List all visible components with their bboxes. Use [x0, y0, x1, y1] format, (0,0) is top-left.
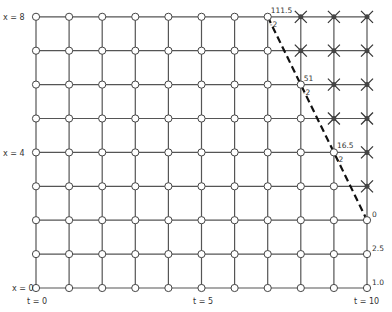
grid-node-circle: [264, 47, 271, 54]
grid-node-circle: [264, 149, 271, 156]
grid-node-circle: [231, 149, 238, 156]
grid-node-circle: [198, 183, 205, 190]
grid-node-circle: [132, 13, 139, 20]
grid-node-circle: [99, 115, 106, 122]
grid-node-circle: [32, 251, 39, 258]
grid-node-circle: [32, 81, 39, 88]
grid-node-circle: [297, 183, 304, 190]
grid-node-circle: [330, 183, 337, 190]
grid-node-circle: [165, 183, 172, 190]
grid-node-circle: [330, 251, 337, 258]
grid-node-circle: [32, 47, 39, 54]
slope-label: -2: [336, 155, 344, 164]
grid-node-circle: [330, 284, 337, 291]
grid-node-circle: [297, 149, 304, 156]
grid-node-circle: [264, 81, 271, 88]
grid-node-circle: [66, 183, 73, 190]
grid-node-circle: [231, 13, 238, 20]
grid-node-circle: [264, 284, 271, 291]
finite-difference-grid: x = 8 x = 4 x = 0 t = 0 t = 5 t = 10 111…: [0, 0, 392, 312]
grid-node-circle: [32, 149, 39, 156]
node-value-label: 16.5: [337, 141, 354, 150]
grid-node-circle: [363, 217, 370, 224]
grid-node-circle: [132, 183, 139, 190]
grid-node-circle: [99, 217, 106, 224]
grid-nodes: [32, 11, 373, 292]
grid-node-circle: [198, 81, 205, 88]
grid-node-circle: [99, 149, 106, 156]
grid-node-circle: [165, 251, 172, 258]
grid-node-circle: [363, 284, 370, 291]
grid-node-circle: [132, 217, 139, 224]
grid-node-circle: [231, 284, 238, 291]
grid-node-circle: [297, 284, 304, 291]
grid-node-circle: [198, 251, 205, 258]
grid-node-circle: [198, 13, 205, 20]
grid-node-circle: [297, 115, 304, 122]
grid-node-circle: [231, 47, 238, 54]
grid-node-circle: [198, 217, 205, 224]
node-value-label: 51: [304, 74, 314, 83]
grid-node-circle: [99, 183, 106, 190]
node-value-label: 2.5: [372, 244, 384, 253]
grid-node-circle: [264, 217, 271, 224]
grid-node-circle: [264, 183, 271, 190]
grid-node-circle: [32, 217, 39, 224]
grid-node-circle: [198, 284, 205, 291]
grid-node-circle: [66, 217, 73, 224]
grid-node-circle: [99, 13, 106, 20]
grid-node-circle: [165, 217, 172, 224]
x-bottom-label: x = 0: [12, 284, 34, 293]
grid-node-circle: [198, 47, 205, 54]
grid-node-circle: [66, 115, 73, 122]
grid-node-circle: [66, 149, 73, 156]
slope-label: -2: [270, 20, 278, 29]
grid-node-circle: [132, 149, 139, 156]
grid-node-circle: [66, 13, 73, 20]
grid-node-circle: [231, 81, 238, 88]
grid-node-circle: [32, 13, 39, 20]
node-value-label: 0: [372, 210, 377, 219]
grid-node-circle: [297, 217, 304, 224]
node-value-label: 1.0: [372, 278, 384, 287]
grid-node-circle: [99, 284, 106, 291]
grid-node-circle: [231, 217, 238, 224]
grid-node-circle: [198, 115, 205, 122]
t-end-label: t = 10: [354, 297, 379, 306]
grid-node-circle: [132, 115, 139, 122]
t-mid-label: t = 5: [193, 297, 213, 306]
grid-node-circle: [165, 284, 172, 291]
labels: x = 8 x = 4 x = 0 t = 0 t = 5 t = 10: [3, 13, 379, 306]
grid-node-circle: [165, 81, 172, 88]
grid-node-circle: [132, 251, 139, 258]
grid-node-circle: [165, 149, 172, 156]
grid-node-circle: [264, 115, 271, 122]
grid-node-circle: [165, 115, 172, 122]
x-top-label: x = 8: [3, 13, 25, 22]
grid-node-circle: [99, 81, 106, 88]
x-mid-label: x = 4: [3, 149, 25, 158]
grid-node-circle: [32, 115, 39, 122]
grid-node-circle: [99, 47, 106, 54]
grid-node-circle: [363, 251, 370, 258]
grid-node-circle: [297, 251, 304, 258]
grid-node-circle: [330, 217, 337, 224]
grid-node-circle: [66, 284, 73, 291]
grid-node-circle: [231, 251, 238, 258]
grid-node-circle: [132, 47, 139, 54]
grid-node-circle: [32, 183, 39, 190]
node-value-label: 111.5: [271, 6, 293, 15]
grid-node-circle: [165, 13, 172, 20]
grid-node-circle: [231, 115, 238, 122]
grid-node-circle: [165, 47, 172, 54]
slope-label: -2: [303, 88, 311, 97]
grid-node-circle: [264, 251, 271, 258]
grid-node-circle: [132, 284, 139, 291]
grid-node-circle: [66, 251, 73, 258]
grid-node-circle: [66, 81, 73, 88]
grid-node-circle: [198, 149, 205, 156]
grid-node-circle: [99, 251, 106, 258]
grid-node-circle: [66, 47, 73, 54]
t-start-label: t = 0: [27, 297, 47, 306]
grid-node-circle: [132, 81, 139, 88]
